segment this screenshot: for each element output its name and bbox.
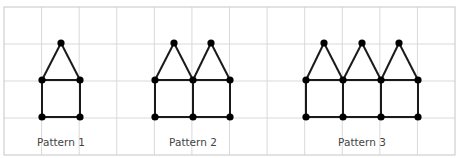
node-dot [302,113,309,120]
pattern-label: Pattern 3 [338,136,386,148]
edge [381,43,399,80]
edge [61,43,80,80]
edge [399,43,418,80]
node-dot [189,113,196,120]
edge [324,43,343,80]
node-dot [377,76,384,83]
node-dot [57,39,64,46]
pattern-3: Pattern 3 [302,39,421,148]
edge [193,43,211,80]
node-dot [189,76,196,83]
node-dot [358,39,365,46]
pattern-2: Pattern 2 [151,39,233,148]
diagram-canvas: Pattern 1Pattern 2Pattern 3 [0,0,461,158]
node-dot [339,76,346,83]
node-dot [339,113,346,120]
edge [174,43,193,80]
edge [155,43,174,80]
edge [211,43,230,80]
node-dot [395,39,402,46]
node-dot [151,76,158,83]
node-dot [414,113,421,120]
edge [42,43,61,80]
pattern-diagram: Pattern 1Pattern 2Pattern 3 [0,0,461,158]
node-dot [226,113,233,120]
node-dot [377,113,384,120]
edge [306,43,324,80]
node-dot [414,76,421,83]
node-dot [38,113,45,120]
node-dot [207,39,214,46]
node-dot [226,76,233,83]
pattern-1: Pattern 1 [37,39,85,148]
node-dot [76,113,83,120]
node-dot [38,76,45,83]
pattern-label: Pattern 2 [169,136,217,148]
node-dot [302,76,309,83]
edge [362,43,381,80]
pattern-label: Pattern 1 [37,136,85,148]
node-dot [170,39,177,46]
node-dot [320,39,327,46]
node-dot [76,76,83,83]
edge [343,43,362,80]
node-dot [151,113,158,120]
